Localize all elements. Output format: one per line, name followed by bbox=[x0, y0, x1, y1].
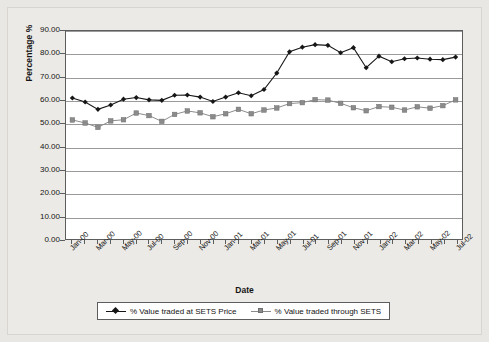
data-point-square bbox=[249, 111, 254, 116]
chart-figure: Percentage % 90.0080.0070.0060.0050.0040… bbox=[0, 0, 489, 342]
data-point-square bbox=[428, 106, 433, 111]
chart-legend: % Value traded at SETS Price % Value tra… bbox=[97, 302, 390, 320]
series-layer bbox=[66, 31, 462, 239]
data-point-square bbox=[326, 98, 331, 103]
data-point-square bbox=[121, 117, 126, 122]
data-point-square bbox=[300, 100, 305, 105]
data-point-diamond bbox=[427, 57, 432, 62]
data-point-diamond bbox=[249, 93, 254, 98]
data-point-diamond bbox=[440, 57, 445, 62]
data-point-diamond bbox=[70, 95, 75, 100]
data-point-square bbox=[96, 125, 101, 130]
data-point-diamond bbox=[83, 99, 88, 104]
plot-area bbox=[65, 30, 463, 240]
y-axis-title: Percentage % bbox=[24, 0, 34, 118]
data-point-square bbox=[108, 119, 113, 124]
data-point-square bbox=[377, 104, 382, 109]
data-point-square bbox=[453, 98, 458, 103]
data-point-diamond bbox=[389, 59, 394, 64]
data-point-diamond bbox=[402, 56, 407, 61]
legend-label-sets-price: % Value traded at SETS Price bbox=[130, 307, 237, 316]
data-point-square bbox=[185, 109, 190, 114]
legend-marker-square-icon bbox=[251, 306, 271, 316]
series-1 bbox=[70, 42, 458, 112]
data-point-square bbox=[402, 108, 407, 113]
data-point-square bbox=[338, 101, 343, 106]
series-line bbox=[72, 100, 455, 128]
data-point-square bbox=[351, 105, 356, 110]
series-2 bbox=[70, 97, 458, 129]
legend-entry-through-sets: % Value traded through SETS bbox=[251, 306, 382, 316]
data-point-diamond bbox=[338, 50, 343, 55]
data-point-square bbox=[147, 113, 152, 118]
data-point-square bbox=[223, 111, 228, 116]
data-point-square bbox=[160, 119, 165, 124]
data-point-square bbox=[274, 106, 279, 111]
data-point-diamond bbox=[325, 43, 330, 48]
data-point-square bbox=[198, 111, 203, 116]
data-point-diamond bbox=[146, 97, 151, 102]
data-point-diamond bbox=[287, 49, 292, 54]
data-point-diamond bbox=[185, 92, 190, 97]
data-point-diamond bbox=[198, 95, 203, 100]
data-point-square bbox=[415, 105, 420, 110]
data-point-square bbox=[262, 108, 267, 113]
data-point-square bbox=[134, 111, 139, 116]
x-axis-title: Date bbox=[0, 285, 489, 295]
series-line bbox=[72, 45, 455, 110]
data-point-diamond bbox=[95, 107, 100, 112]
data-point-square bbox=[364, 108, 369, 113]
data-point-diamond bbox=[134, 95, 139, 100]
data-point-diamond bbox=[108, 102, 113, 107]
data-point-diamond bbox=[313, 42, 318, 47]
data-point-square bbox=[70, 118, 75, 123]
data-point-diamond bbox=[223, 95, 228, 100]
legend-marker-diamond-icon bbox=[106, 306, 126, 316]
data-point-square bbox=[172, 112, 177, 117]
data-point-square bbox=[287, 101, 292, 106]
data-point-square bbox=[313, 97, 318, 102]
legend-label-through-sets: % Value traded through SETS bbox=[275, 307, 382, 316]
data-point-square bbox=[211, 114, 216, 119]
data-point-diamond bbox=[121, 97, 126, 102]
data-point-diamond bbox=[210, 99, 215, 104]
data-point-square bbox=[389, 105, 394, 110]
data-point-diamond bbox=[453, 55, 458, 60]
data-point-diamond bbox=[172, 93, 177, 98]
legend-entry-sets-price: % Value traded at SETS Price bbox=[106, 306, 237, 316]
data-point-square bbox=[83, 121, 88, 126]
data-point-diamond bbox=[300, 45, 305, 50]
data-point-diamond bbox=[351, 45, 356, 50]
data-point-diamond bbox=[415, 55, 420, 60]
data-point-square bbox=[441, 103, 446, 108]
data-point-square bbox=[236, 107, 241, 112]
data-point-diamond bbox=[236, 90, 241, 95]
data-point-diamond bbox=[159, 98, 164, 103]
